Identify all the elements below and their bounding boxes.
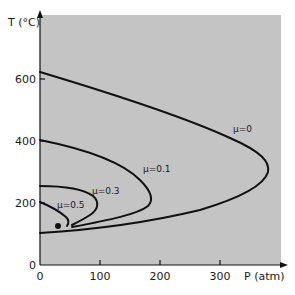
y-tick-0: 0 <box>29 259 36 272</box>
y-axis-title: T (°C) <box>7 16 40 29</box>
point-marker <box>55 223 61 229</box>
label-mu-0: μ=0 <box>233 124 252 134</box>
y-tick-200: 200 <box>15 197 36 210</box>
plot-area <box>40 15 281 265</box>
x-axis-title: P (atm) <box>244 270 284 283</box>
x-tick-100: 100 <box>90 270 111 283</box>
x-tick-200: 200 <box>150 270 171 283</box>
x-axis-arrow-icon <box>280 262 288 268</box>
label-mu-0.5: μ=0.5 <box>57 200 85 210</box>
phase-diagram-chart: 0 200 400 600 0 100 200 300 T (°C) P (at… <box>0 0 295 295</box>
label-mu-0.1: μ=0.1 <box>143 164 171 174</box>
x-tick-300: 300 <box>210 270 231 283</box>
label-mu-0.3: μ=0.3 <box>92 186 120 196</box>
y-tick-600: 600 <box>15 73 36 86</box>
x-tick-0: 0 <box>37 270 44 283</box>
y-tick-400: 400 <box>15 135 36 148</box>
